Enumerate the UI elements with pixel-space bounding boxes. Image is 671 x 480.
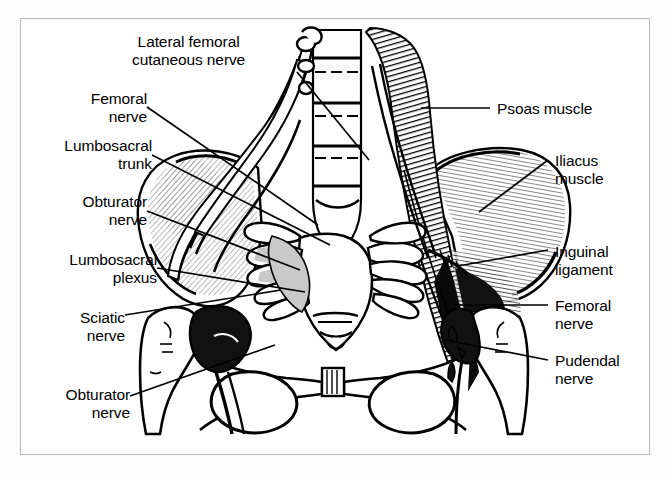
label-line: nerve — [109, 108, 147, 125]
label-iliacus-muscle: Iliacusmuscle — [555, 152, 604, 187]
label-psoas-muscle: Psoas muscle — [497, 100, 592, 118]
label-line: Obturator — [65, 386, 130, 403]
label-line: nerve — [555, 315, 593, 332]
label-line: plexus — [113, 269, 157, 286]
label-femoral-nerve-right: Femoralnerve — [555, 297, 611, 332]
label-line: nerve — [555, 370, 593, 387]
label-lateral-femoral-cutaneous-nerve: Lateral femoralcutaneous nerve — [132, 33, 245, 68]
label-line: Femoral — [555, 297, 611, 314]
label-line: Lateral femoral — [138, 33, 240, 50]
label-line: cutaneous nerve — [132, 51, 245, 68]
label-obturator-nerve-lower: Obturatornerve — [0, 386, 130, 421]
label-obturator-nerve-upper: Obturatornerve — [0, 193, 147, 228]
label-line: ligament — [555, 261, 613, 278]
pubic-symphysis — [322, 368, 344, 396]
label-line: Femoral — [91, 90, 147, 107]
label-pudendal-nerve: Pudendalnerve — [555, 352, 620, 387]
label-femoral-nerve: Femoralnerve — [0, 90, 147, 125]
label-line: Pudendal — [555, 352, 620, 369]
label-line: Lumbosacral — [64, 137, 152, 154]
label-line: Obturator — [82, 193, 147, 210]
obturator-foramen-right — [369, 372, 455, 433]
label-lumbosacral-trunk: Lumbosacraltrunk — [0, 137, 152, 172]
label-line: nerve — [109, 211, 147, 228]
label-line: Sciatic — [80, 309, 125, 326]
label-line: trunk — [118, 155, 152, 172]
label-line: muscle — [555, 170, 604, 187]
label-line: Inguinal — [555, 243, 609, 260]
lumbar-vertebral-column — [313, 30, 362, 238]
label-sciatic-nerve: Sciaticnerve — [0, 309, 125, 344]
label-inguinal-ligament: Inguinalligament — [555, 243, 613, 278]
label-lumbosacral-plexus: Lumbosacralplexus — [0, 251, 157, 286]
nerve-roots-right — [368, 223, 427, 318]
label-line: Lumbosacral — [69, 251, 157, 268]
label-line: Psoas muscle — [497, 100, 592, 117]
label-line: nerve — [87, 327, 125, 344]
label-line: Iliacus — [555, 152, 598, 169]
label-line: nerve — [92, 404, 130, 421]
